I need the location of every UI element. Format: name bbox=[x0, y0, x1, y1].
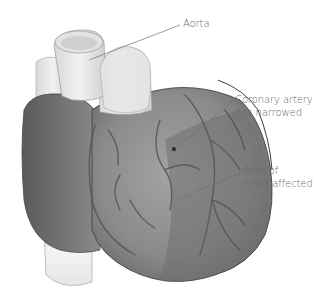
label-coronary-artery: Coronary artery has narrowed bbox=[235, 93, 313, 119]
heart-diagram: Aorta Coronary artery has narrowed Area … bbox=[0, 0, 320, 301]
left-atrium bbox=[100, 46, 151, 113]
label-aorta: Aorta bbox=[183, 17, 209, 30]
affected-area bbox=[160, 110, 269, 282]
heart-illustration bbox=[0, 0, 320, 301]
right-atrium bbox=[22, 94, 100, 253]
label-area-affected: Area of heart affected bbox=[243, 164, 313, 190]
